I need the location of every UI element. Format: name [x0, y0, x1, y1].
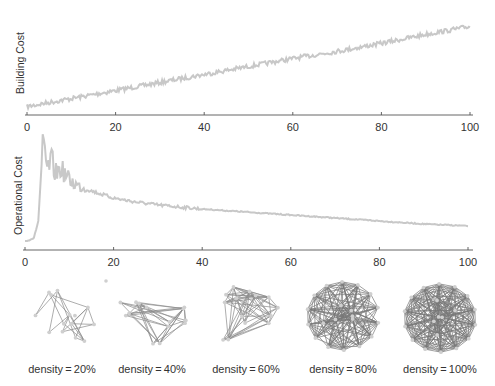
network-node: [369, 292, 373, 296]
network-node: [86, 306, 90, 310]
network-node: [151, 342, 155, 346]
network-node: [92, 323, 96, 327]
figure: Building Cost 020406080100 Operational C…: [0, 0, 495, 386]
x-tick-label: 100: [461, 121, 479, 133]
network-node: [183, 321, 187, 325]
network-node: [306, 307, 310, 311]
network-node: [453, 309, 457, 313]
x-tick-label: 0: [22, 256, 28, 268]
network-node: [47, 330, 51, 334]
network-node: [325, 284, 329, 288]
network-node: [34, 314, 38, 318]
network-node: [466, 294, 470, 298]
y-axis-label: Building Cost: [14, 32, 26, 94]
network-node: [221, 338, 225, 342]
network-node: [168, 320, 172, 324]
network-node: [276, 306, 280, 310]
network-node: [145, 306, 149, 310]
x-tick-label: 60: [287, 121, 299, 133]
x-tick-label: 100: [459, 256, 477, 268]
network-node: [340, 280, 344, 284]
x-tick-label: 20: [109, 121, 121, 133]
network-node: [83, 339, 87, 343]
network-node: [440, 315, 444, 319]
network-node: [467, 337, 471, 341]
network-node: [334, 318, 338, 322]
network-node: [339, 304, 343, 308]
network-node: [321, 321, 325, 325]
network-node: [358, 345, 362, 349]
network-graph: density = 20%: [28, 289, 96, 375]
network-node: [47, 291, 51, 295]
network-node: [453, 285, 457, 289]
stray-node: [104, 279, 108, 283]
network-node: [423, 347, 427, 351]
network-node: [223, 300, 227, 304]
network-node: [61, 330, 65, 334]
network-node: [248, 290, 252, 294]
x-tick-label: 80: [373, 256, 385, 268]
network-node: [127, 312, 131, 316]
operational-cost-chart: Operational Cost 020406080100: [12, 134, 477, 268]
network-node: [158, 342, 162, 346]
network-graph: density = 60%: [212, 285, 280, 375]
network-node: [306, 323, 310, 327]
network-edge: [76, 307, 88, 337]
network-node: [70, 322, 74, 326]
network-node: [435, 299, 439, 303]
network-edges: [308, 282, 379, 350]
building-cost-line: [27, 26, 470, 108]
network-node: [119, 301, 123, 305]
operational-cost-line: [25, 134, 468, 241]
network-node: [437, 282, 441, 286]
network-node: [243, 321, 247, 325]
network-node: [74, 336, 78, 340]
network-node: [232, 285, 236, 289]
network-node: [56, 289, 60, 293]
network-graph: density = 80%: [306, 280, 380, 375]
density-label: density = 60%: [212, 363, 280, 375]
network-node: [437, 315, 441, 319]
network-edge: [314, 282, 342, 296]
network-node: [182, 305, 186, 309]
network-node: [356, 283, 360, 287]
network-node: [254, 294, 258, 298]
x-tick-label: 60: [285, 256, 297, 268]
network-node: [403, 325, 407, 329]
network-graph: density = 40%: [118, 300, 188, 375]
network-node: [403, 309, 407, 313]
network-graph: density = 100%: [403, 282, 477, 375]
network-edges: [120, 302, 185, 344]
network-edge: [228, 316, 271, 340]
network-node: [432, 319, 436, 323]
density-label: density = 40%: [118, 363, 186, 375]
network-node: [409, 295, 413, 299]
network-node: [351, 317, 355, 321]
network-node: [349, 309, 353, 313]
network-node: [166, 325, 170, 329]
x-tick-label: 80: [375, 121, 387, 133]
density-label: density = 20%: [28, 363, 96, 375]
network-node: [269, 314, 273, 318]
building-cost-chart: Building Cost 020406080100: [14, 26, 479, 133]
network-node: [312, 293, 316, 297]
network-node: [314, 336, 318, 340]
network-node: [240, 314, 244, 318]
network-panels: density = 20%density = 40%density = 60%d…: [28, 279, 477, 375]
network-node: [473, 308, 477, 312]
x-tick-label: 20: [107, 256, 119, 268]
x-tick-label: 0: [24, 121, 30, 133]
network-node: [422, 286, 426, 290]
network-node: [370, 335, 374, 339]
network-edge: [371, 294, 378, 308]
network-node: [326, 345, 330, 349]
y-axis-label: Operational Cost: [12, 156, 24, 235]
network-node: [73, 314, 77, 318]
network-edge: [88, 307, 94, 324]
network-node: [224, 293, 228, 297]
network-node: [411, 338, 415, 342]
network-node: [267, 321, 271, 325]
network-node: [376, 306, 380, 310]
network-node: [267, 295, 271, 299]
x-tick-label: 40: [198, 121, 210, 133]
